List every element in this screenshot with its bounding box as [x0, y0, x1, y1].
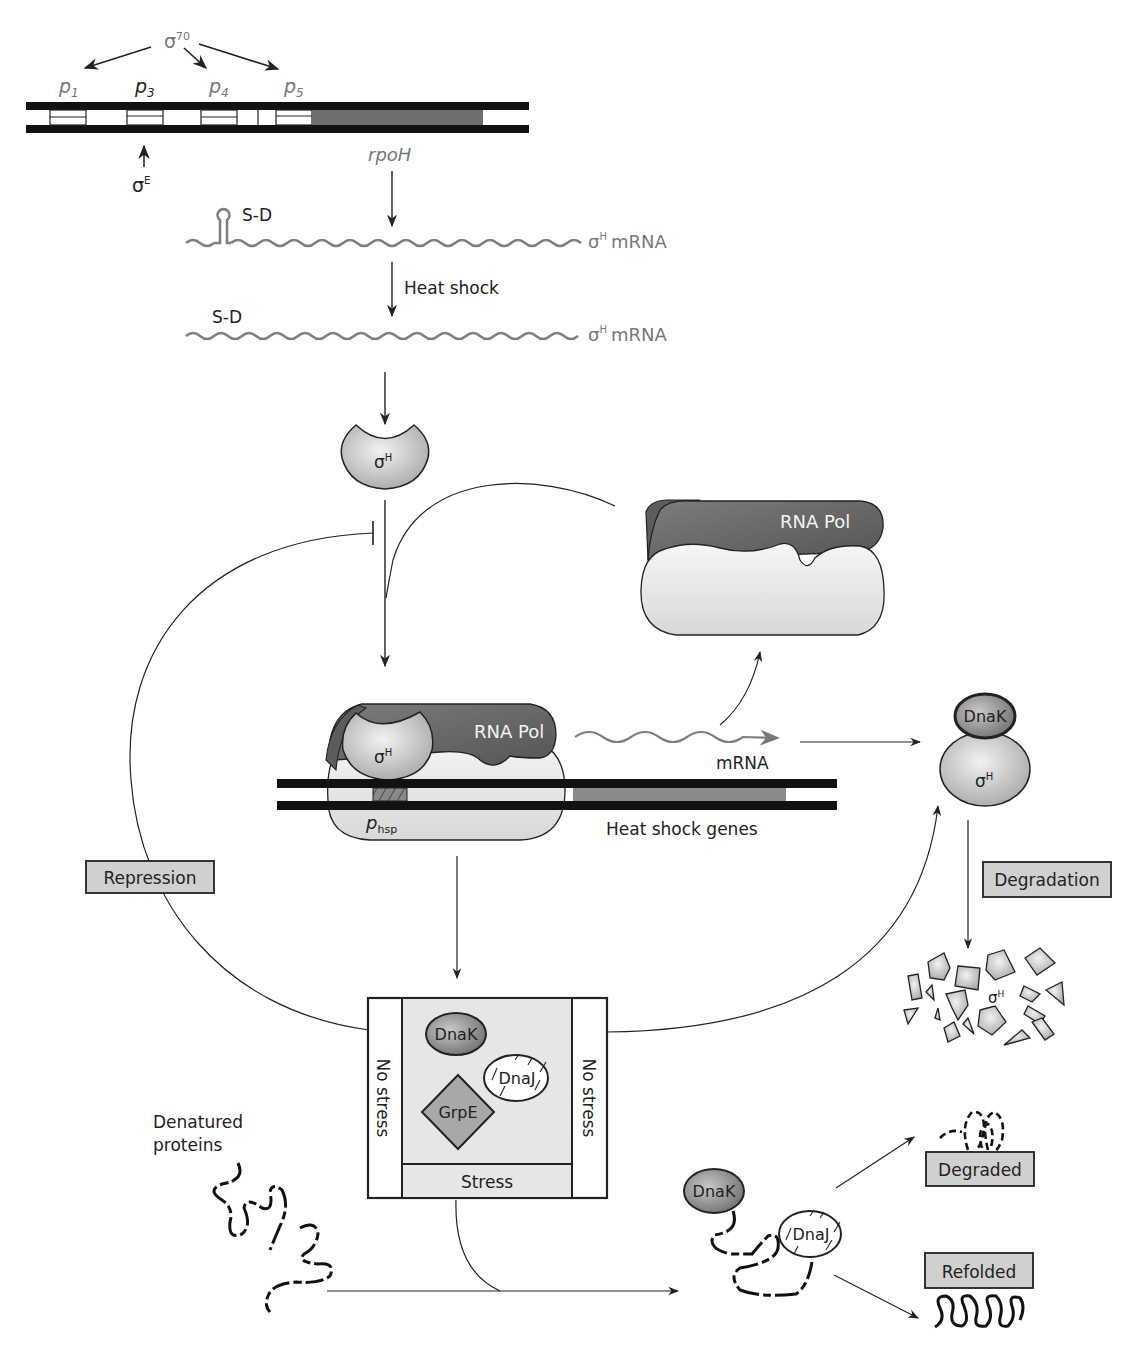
refolded-label-box: Refolded	[925, 1253, 1033, 1288]
arrow-to-p1	[85, 47, 151, 68]
mrna-wave	[186, 333, 578, 339]
sigmaH-fragments	[904, 948, 1064, 1045]
arrow-to-p4	[184, 48, 206, 68]
degradation-label-box: Degradation	[983, 862, 1111, 897]
denatured-protein-chain	[214, 1163, 286, 1250]
hsp-promoter	[373, 788, 407, 801]
svg-text:DnaK: DnaK	[964, 707, 1007, 726]
chaperone-to-sigma-curve	[607, 806, 938, 1032]
sigmaE-label: σE	[132, 174, 150, 196]
complex-rna-pol-label: RNA Pol	[474, 721, 544, 742]
svg-text:Degraded: Degraded	[938, 1160, 1022, 1180]
dna-top-strand	[26, 102, 529, 110]
sd-label-2: S-D	[212, 307, 242, 327]
degraded-protein-fragments	[940, 1112, 1003, 1152]
hs-dna-bottom	[277, 801, 837, 810]
rpoh-locus: σ70 p1 p3 p4 p5 rpoH σE	[26, 30, 529, 196]
rna-pol-free: RNA Pol	[641, 500, 884, 635]
sigmaH-protein: σH	[341, 425, 428, 489]
repression-label-box: Repression	[86, 861, 214, 893]
mrna-wave	[186, 240, 581, 246]
promoter-p4: p4	[208, 75, 229, 100]
svg-text:GrpE: GrpE	[438, 1103, 477, 1122]
chaperone-box: No stress No stress Stress DnaK DnaJ Grp…	[368, 998, 607, 1198]
svg-text:Degradation: Degradation	[994, 870, 1100, 890]
rna-pol-free-label: RNA Pol	[780, 511, 850, 532]
promoter-p5: p5	[283, 75, 304, 100]
hs-mrna-wave	[575, 732, 778, 742]
sigmaH-mrna-open: S-D σHmRNA	[186, 307, 667, 345]
arrow-to-free-pol	[720, 652, 760, 725]
svg-text:Refolded: Refolded	[942, 1262, 1017, 1282]
stress-label: Stress	[461, 1172, 513, 1192]
no-stress-left: No stress	[373, 1059, 393, 1138]
dna-bottom-strand	[26, 125, 529, 133]
stem-loop-icon	[214, 209, 231, 243]
svg-text:DnaK: DnaK	[435, 1025, 478, 1044]
promoter-boxes	[50, 110, 312, 125]
promoter-p1: p1	[58, 75, 79, 100]
sigma70-label: σ70	[164, 30, 190, 52]
svg-text:DnaJ: DnaJ	[793, 1225, 830, 1244]
rna-pol-recruit-curve	[386, 484, 615, 598]
sigmaH-mrna-repressed: S-D σHmRNA	[186, 205, 667, 252]
promoter-p3: p3	[134, 75, 155, 100]
hs-dna-top	[277, 779, 837, 788]
svg-text:DnaK: DnaK	[693, 1182, 736, 1201]
denatured-label-1: Denatured	[153, 1112, 243, 1132]
arrow-to-degraded	[836, 1137, 914, 1188]
svg-text:Repression: Repression	[104, 868, 197, 888]
transcription-complex: σH RNA Pol	[326, 704, 565, 840]
no-stress-right: No stress	[579, 1059, 599, 1138]
chaperone-substrate-complex: DnaK DnaJ	[684, 1169, 841, 1295]
arrow-to-p5	[199, 44, 278, 69]
dnak-sigma-complex: DnaK σH	[940, 694, 1030, 806]
mrna-label-1: σHmRNA	[588, 231, 667, 252]
rpoh-label: rpoH	[368, 144, 412, 165]
heat-shock-diagram: σ70 p1 p3 p4 p5 rpoH σE S-D σHmRNA Heat	[0, 0, 1146, 1351]
svg-text:DnaJ: DnaJ	[499, 1069, 536, 1088]
fragments-sigma-label: σH	[988, 989, 1004, 1007]
stress-to-flow-curve	[456, 1200, 500, 1291]
mrna-label-2: σHmRNA	[588, 324, 667, 345]
degraded-label-box: Degraded	[926, 1152, 1034, 1186]
arrow-to-refolded	[834, 1275, 918, 1318]
refolded-protein	[935, 1296, 1023, 1327]
heat-shock-label: Heat shock	[404, 278, 499, 298]
heat-shock-genes-label: Heat shock genes	[606, 819, 758, 839]
rpoh-gene	[312, 110, 483, 125]
denatured-label-2: proteins	[153, 1135, 222, 1155]
heat-shock-genes-region	[573, 788, 786, 801]
sd-label: S-D	[242, 205, 272, 225]
hs-mrna-label: mRNA	[716, 753, 769, 773]
